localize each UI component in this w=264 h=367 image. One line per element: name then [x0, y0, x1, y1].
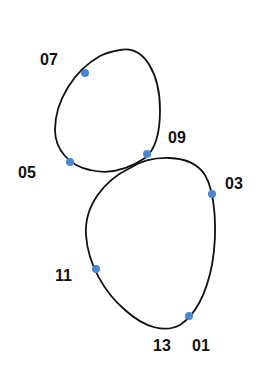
- label-13: 13: [153, 338, 171, 354]
- point-01: [185, 312, 193, 320]
- label-01: 01: [192, 338, 210, 354]
- label-09: 09: [168, 130, 186, 146]
- point-03: [208, 190, 216, 198]
- point-05: [66, 158, 74, 166]
- lower-loop: [86, 158, 215, 329]
- point-07: [81, 69, 89, 77]
- point-11: [92, 265, 100, 273]
- point-09: [143, 150, 151, 158]
- label-07: 07: [40, 52, 58, 68]
- label-05: 05: [18, 165, 36, 181]
- label-03: 03: [225, 176, 243, 192]
- label-11: 11: [55, 268, 72, 284]
